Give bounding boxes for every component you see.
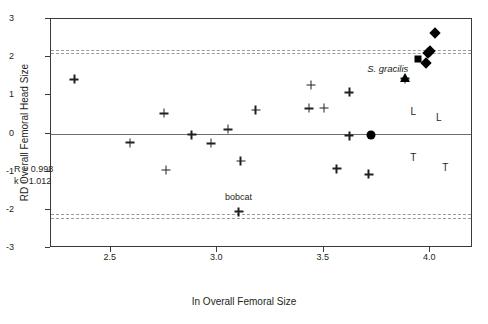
- data-point-plus: [223, 125, 232, 134]
- x-tick-label: 2.5: [103, 252, 116, 262]
- confidence-line-1: [51, 53, 471, 54]
- x-tick-label: 3.0: [210, 252, 223, 262]
- y-tick-mark: [45, 247, 50, 248]
- data-point-plus: [125, 138, 134, 147]
- y-tick-label: 3: [0, 13, 14, 23]
- y-tick-label: 2: [0, 51, 14, 61]
- data-point-plus: [319, 103, 328, 112]
- plot-area: bobcatS. gracilisLLTT: [50, 18, 472, 247]
- stat-r-value: R = 0.998: [14, 163, 53, 175]
- annotation-t: T: [410, 152, 416, 163]
- data-point-plus: [345, 88, 354, 97]
- data-point-plus: [159, 109, 168, 118]
- scatter-plot-figure: RD Overall Femoral Head Size 3210-1-2-3 …: [0, 0, 488, 324]
- x-tick-mark: [429, 247, 430, 252]
- confidence-line-2: [51, 214, 471, 215]
- annotation-bobcat: bobcat: [225, 192, 252, 202]
- confidence-line-3: [51, 218, 471, 219]
- data-point-plus: [251, 105, 260, 114]
- x-tick-mark: [216, 247, 217, 252]
- data-point-plus: [206, 139, 215, 148]
- data-point-triangle: [400, 73, 410, 82]
- zero-reference-line: [51, 134, 471, 135]
- data-point-circle: [366, 130, 375, 139]
- data-point-plus: [345, 131, 354, 140]
- data-point-plus: [187, 130, 196, 139]
- data-point-plus: [236, 156, 245, 165]
- confidence-line-0: [51, 50, 471, 51]
- x-tick-mark: [323, 247, 324, 252]
- x-tick-label: 3.5: [317, 252, 330, 262]
- annotation-l: L: [411, 105, 417, 116]
- data-point-plus: [234, 207, 243, 216]
- annotation-l: L: [436, 112, 442, 123]
- stat-k-value: k = 1.012: [14, 175, 53, 187]
- x-tick-mark: [110, 247, 111, 252]
- y-tick-label: 1: [0, 89, 14, 99]
- annotation-t: T: [442, 162, 448, 173]
- x-tick-label: 4.0: [423, 252, 436, 262]
- data-point-diamond: [420, 58, 431, 69]
- data-point-square: [414, 55, 421, 62]
- y-tick-label: -1: [0, 166, 14, 176]
- x-axis-label: In Overall Femoral Size: [0, 296, 488, 307]
- data-point-plus: [304, 104, 313, 113]
- data-point-plus: [307, 81, 316, 90]
- data-point-plus: [162, 166, 171, 175]
- statistics-annotation: R = 0.998 k = 1.012: [14, 163, 53, 187]
- data-point-plus: [70, 75, 79, 84]
- y-tick-label: -3: [0, 242, 14, 252]
- y-tick-label: 0: [0, 128, 14, 138]
- y-tick-label: -2: [0, 204, 14, 214]
- annotation-sgracilis: S. gracilis: [367, 62, 408, 73]
- data-point-plus: [332, 164, 341, 173]
- data-point-plus: [364, 170, 373, 179]
- y-axis-label: RD Overall Femoral Head Size: [19, 23, 30, 243]
- data-point-diamond: [429, 27, 440, 38]
